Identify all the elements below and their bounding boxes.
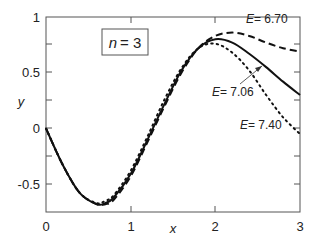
y-tick-0: 0 bbox=[33, 121, 40, 136]
x-tick-0: 0 bbox=[42, 219, 49, 234]
x-tick-3: 3 bbox=[296, 219, 303, 234]
x-tick-2: 2 bbox=[211, 219, 218, 234]
annotation-box-text: n= 3 bbox=[109, 34, 142, 51]
label-e-7.40: E= 7.40 bbox=[240, 118, 282, 132]
y-axis-label: y bbox=[17, 94, 26, 109]
y-tick-1: 1 bbox=[33, 10, 40, 25]
y-tick-neg0.5: -0.5 bbox=[18, 177, 40, 192]
label-e-7.06: E= 7.06 bbox=[212, 85, 254, 99]
x-tick-1: 1 bbox=[127, 219, 134, 234]
label-e-6.70: E= 6.70 bbox=[246, 12, 288, 26]
x-axis-label: x bbox=[169, 221, 177, 236]
plot-frame bbox=[46, 17, 300, 212]
y-tick-0.5: 0.5 bbox=[22, 65, 40, 80]
ticks bbox=[46, 17, 300, 212]
chart: 0 1 2 3 1 0.5 0 -0.5 x y n= 3 E= 6.70 E=… bbox=[0, 0, 318, 244]
